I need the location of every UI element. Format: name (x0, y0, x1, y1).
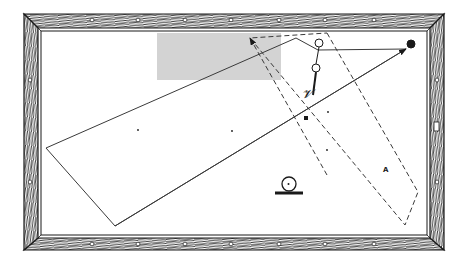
highlight-region (157, 33, 281, 80)
billiard-balls (312, 39, 415, 72)
square-marker (304, 116, 308, 120)
diamond-marker (28, 180, 32, 184)
billiard-diagram: 𝓥 A (0, 0, 465, 261)
left-rail (24, 14, 38, 250)
diamond-marker (372, 18, 376, 22)
diamond-marker (435, 180, 439, 184)
diamond-marker (136, 242, 140, 246)
diamond-marker (277, 242, 281, 246)
diamond-marker (277, 18, 281, 22)
top-rail (24, 14, 444, 28)
object-ball-top (315, 39, 323, 47)
rail-slot (434, 122, 439, 131)
spot-dot (327, 111, 329, 113)
spot-dot (326, 149, 328, 151)
diamond-marker (229, 242, 233, 246)
spot-dot (231, 130, 233, 132)
diamond-marker (183, 242, 187, 246)
right-rail (430, 14, 444, 250)
diamond-marker (229, 18, 233, 22)
diamond-marker (323, 242, 327, 246)
diagram-canvas: 𝓥 A (0, 0, 465, 261)
diamond-marker (90, 18, 94, 22)
diamond-marker (28, 78, 32, 82)
target-ball (407, 40, 415, 48)
table-markers (137, 111, 329, 151)
diamond-marker (90, 242, 94, 246)
diamond-marker (183, 18, 187, 22)
diamond-marker (323, 18, 327, 22)
cue-ball-icon (275, 177, 303, 195)
spot-label: A (383, 166, 389, 174)
cue-stick (313, 72, 316, 95)
diamond-marker (136, 18, 140, 22)
bottom-rail (24, 238, 444, 250)
spot-dot (137, 129, 139, 131)
diamond-marker (372, 242, 376, 246)
diamond-marker (435, 78, 439, 82)
object-ball-lower (312, 64, 320, 72)
